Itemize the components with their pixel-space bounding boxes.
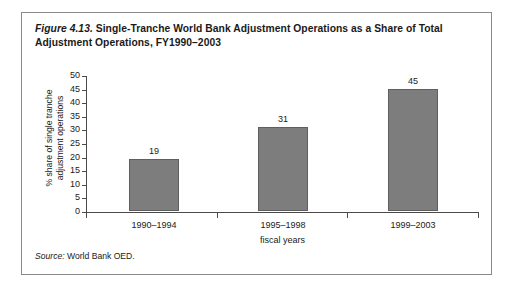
y-tick-label-50: 50: [70, 70, 80, 81]
y-axis-line: [86, 76, 87, 213]
y-tick-label-25: 25: [70, 138, 80, 149]
bar-value-1999-2003: 45: [408, 76, 418, 87]
x-axis-title: fiscal years: [86, 235, 479, 246]
figure-container: Figure 4.13. Single-Tranche World Bank A…: [21, 12, 492, 275]
figure-title: Single-Tranche World Bank Adjustment Ope…: [35, 23, 443, 48]
y-tick-label-0: 0: [75, 206, 80, 217]
bar-1995-1998: 31: [258, 127, 308, 211]
bar-value-1995-1998: 31: [278, 114, 288, 125]
x-tick-boundary-1: [217, 213, 218, 218]
bar-1999-2003: 45: [388, 89, 438, 211]
y-tick-label-15: 15: [70, 165, 80, 176]
x-axis-line: [86, 212, 479, 213]
x-category-label-2: 1999–2003: [390, 220, 435, 231]
y-tick-label-35: 35: [70, 111, 80, 122]
bar-value-1990-1994: 19: [149, 146, 159, 157]
y-tick-label-45: 45: [70, 84, 80, 95]
x-tick-boundary-2: [347, 213, 348, 218]
x-tick-boundary-3: [478, 213, 479, 218]
x-category-label-1: 1995–1998: [260, 220, 305, 231]
y-axis-title: % share of single tranche adjustment ope…: [44, 0, 66, 73]
x-tick-boundary-0: [86, 213, 87, 218]
y-tick-label-10: 10: [70, 179, 80, 190]
bar-1990-1994: 19: [129, 159, 179, 211]
source-text: World Bank OED.: [67, 251, 135, 261]
y-axis-title-text: % share of single tranche adjustment ope…: [44, 73, 65, 203]
y-tick-label-5: 5: [75, 192, 80, 203]
chart-plot-area: 0 5 10 15 20 25 30 35: [86, 76, 479, 212]
figure-caption: Figure 4.13. Single-Tranche World Bank A…: [35, 22, 465, 50]
y-tick-label-30: 30: [70, 124, 80, 135]
y-tick-label-20: 20: [70, 152, 80, 163]
source-label: Source:: [35, 251, 65, 261]
source-note: Source: World Bank OED.: [35, 251, 135, 262]
y-tick-label-40: 40: [70, 97, 80, 108]
x-category-label-0: 1990–1994: [131, 220, 176, 231]
